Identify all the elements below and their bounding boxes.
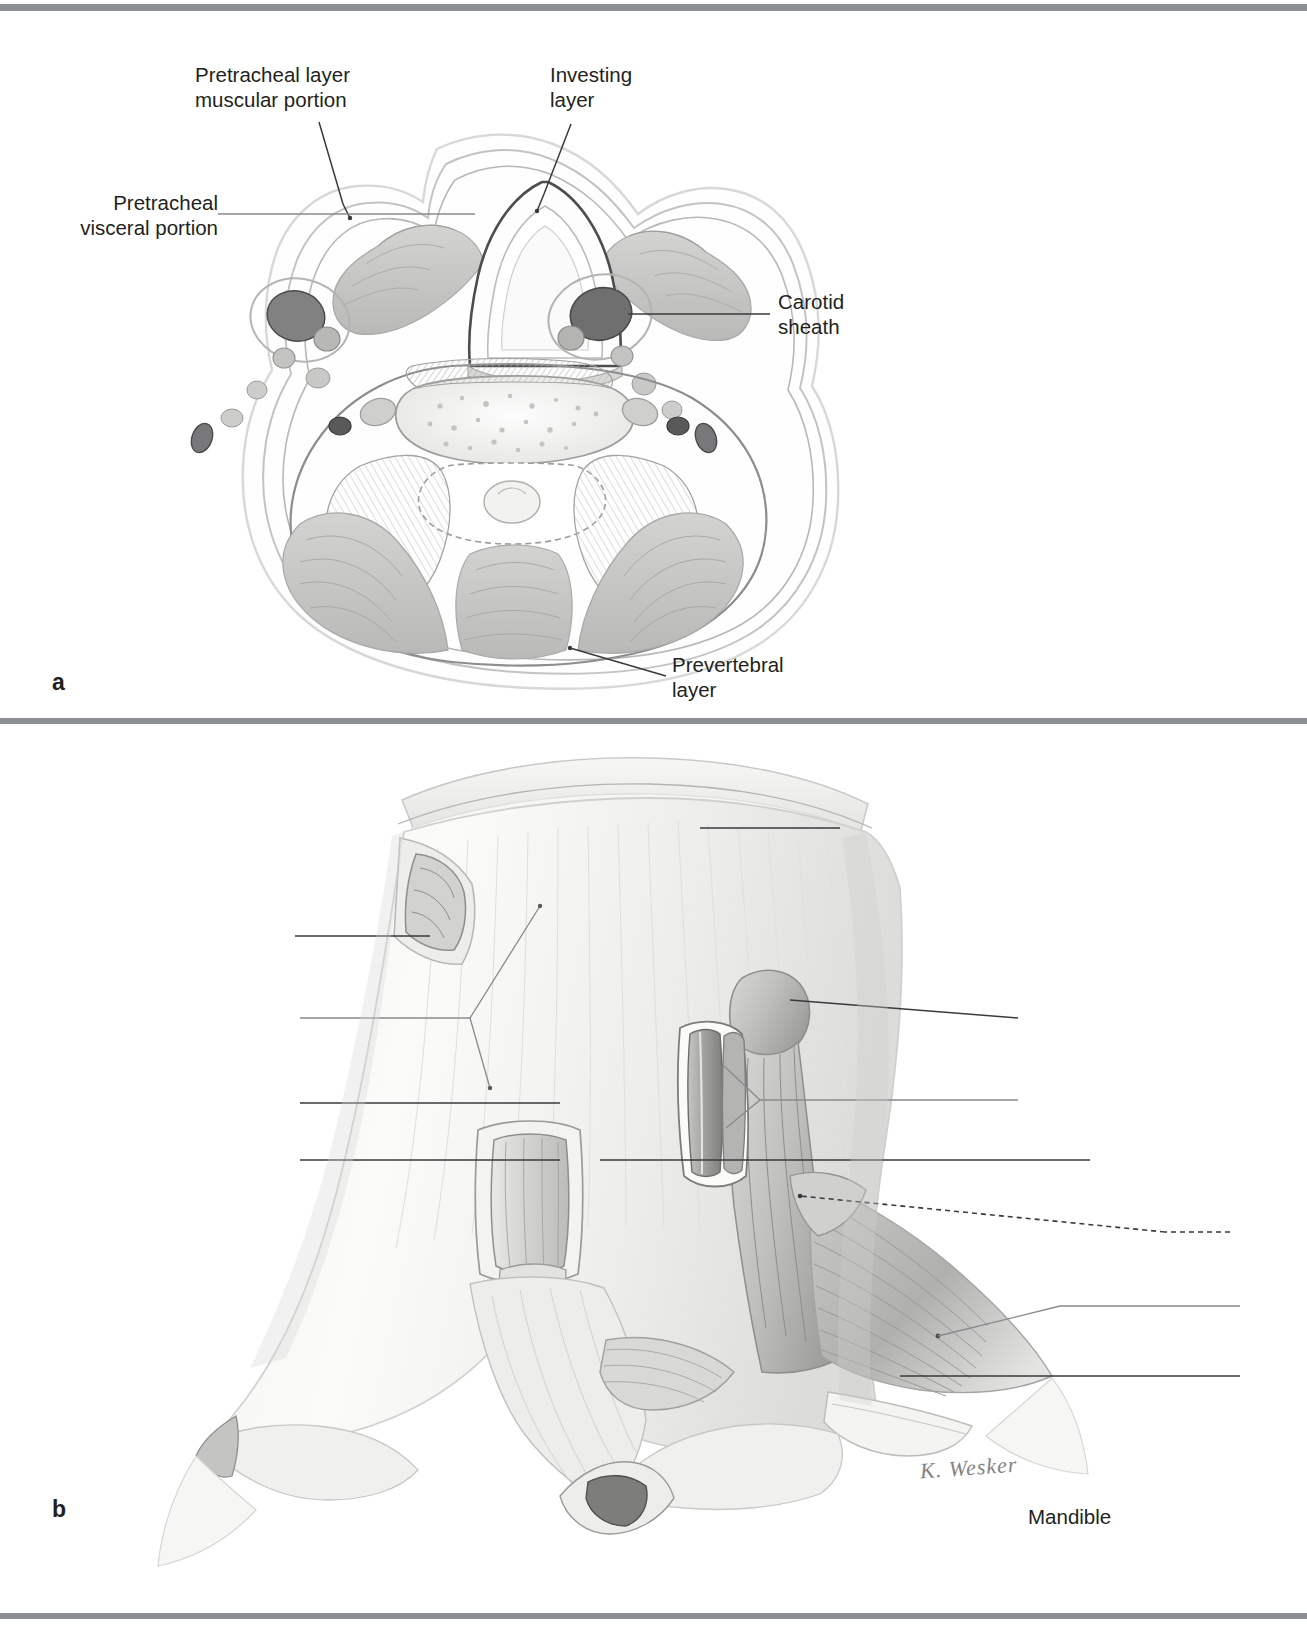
page-rule-top xyxy=(0,4,1307,11)
leader-dot-investing-upper xyxy=(538,904,542,908)
lymph-node xyxy=(221,409,243,427)
label-prevertebral-layer-a: Prevertebral layer xyxy=(672,652,892,702)
vertebral-artery-left xyxy=(329,417,351,435)
anterior-neck-dissection-illustration xyxy=(0,728,1307,1608)
vertebral-artery-right xyxy=(667,417,689,435)
label-investing-layer-a: Investing layer xyxy=(550,62,750,112)
leader-dot-investing-lower xyxy=(488,1086,492,1090)
lymph-node xyxy=(662,401,682,419)
label-pretracheal-muscular-portion: Pretracheal layer muscular portion xyxy=(195,62,515,112)
internal-jugular-vein-b xyxy=(688,1030,723,1177)
clavicle-right xyxy=(824,1392,972,1456)
label-pretracheal-visceral-portion: Pretracheal visceral portion xyxy=(0,190,218,240)
common-carotid-artery-left xyxy=(314,327,340,351)
panel-letter-a: a xyxy=(52,671,65,694)
figure-panel-b: Mandible Parotid gland Investing layer S… xyxy=(0,728,1307,1608)
vagus-nerve-left xyxy=(273,348,295,368)
leader-dot-pretracheal-muscular xyxy=(348,216,352,220)
neck-cross-section-drawing xyxy=(187,122,838,689)
vertebral-body xyxy=(396,376,634,464)
vagus-nerve-right xyxy=(611,346,633,366)
common-carotid-artery-b xyxy=(723,1033,746,1174)
external-jugular-vein-left xyxy=(187,420,216,455)
figure-panel-a: Pretracheal layer muscular portion Inves… xyxy=(0,14,1307,714)
leader-dot-investing xyxy=(535,209,539,213)
lymph-node xyxy=(247,381,267,399)
label-mandible: Mandible xyxy=(1028,1504,1278,1529)
sternohyoid-muscle xyxy=(491,1134,569,1274)
spinal-cord xyxy=(484,481,540,523)
anterior-neck-drawing xyxy=(158,758,1240,1566)
page-rule-bottom xyxy=(0,1613,1307,1619)
lymph-node-left xyxy=(306,368,330,388)
page-rule-middle xyxy=(0,718,1307,724)
common-carotid-artery-right xyxy=(558,326,584,350)
label-carotid-sheath-a: Carotid sheath xyxy=(778,289,998,339)
leader-dot-prevertebral xyxy=(568,646,572,650)
leader-dot-prevertebral-b xyxy=(798,1194,803,1199)
panel-letter-b: b xyxy=(52,1498,66,1521)
transverse-neck-section-illustration xyxy=(0,14,1307,714)
